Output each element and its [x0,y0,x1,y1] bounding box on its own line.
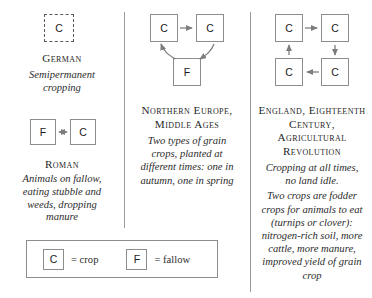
legend-item-crop: C = crop [43,249,98,270]
node-german-crop: C [44,14,74,42]
column-divider-right [250,12,251,292]
england-heading: England, Eighteenth Century, Agricultura… [253,104,371,158]
england-caption-2: Two crops are fodder crops for animals t… [253,189,371,281]
roman-caption: Animals on fallow, eating stubble and we… [2,173,122,223]
legend-node-crop: C [43,249,64,270]
arrow-ne-fallow-crop1 [161,44,175,59]
legend-box: C = crop F = fallow [26,240,218,278]
roman-diagram: F C [2,116,122,150]
northern-europe-caption: Two types of grain crops, planted at dif… [128,134,246,187]
column-divider-left [124,12,125,228]
legend-node-fallow: F [126,249,147,270]
column-left: C German Semipermanent cropping F C Roma… [2,10,122,224]
column-middle: C C F Northern Europe, Middle Ages Two t… [128,10,246,187]
northern-europe-arrow-svg [128,14,246,94]
column-right: C C C C England, Eighteenth Century, Agr… [253,10,371,282]
legend-label-fallow: = fallow [154,254,190,265]
crop-rotation-figure: C German Semipermanent cropping F C Roma… [0,0,372,298]
german-heading: German [2,52,122,66]
roman-arrow-svg [2,116,122,150]
german-caption: Semipermanent cropping [2,68,122,94]
legend-row: C = crop F = fallow [27,241,217,277]
england-diagram: C C C C [253,14,371,94]
england-arrow-svg [253,14,371,94]
england-caption-1: Cropping at all times, no land idle. [253,161,371,187]
legend-item-fallow: F = fallow [126,249,190,270]
northern-europe-heading: Northern Europe, Middle Ages [128,104,246,131]
german-diagram: C [2,10,122,44]
arrow-ne-crop2-fallow [200,44,214,59]
northern-europe-diagram: C C F [128,14,246,94]
legend-label-crop: = crop [71,254,98,265]
roman-heading: Roman [2,158,122,172]
